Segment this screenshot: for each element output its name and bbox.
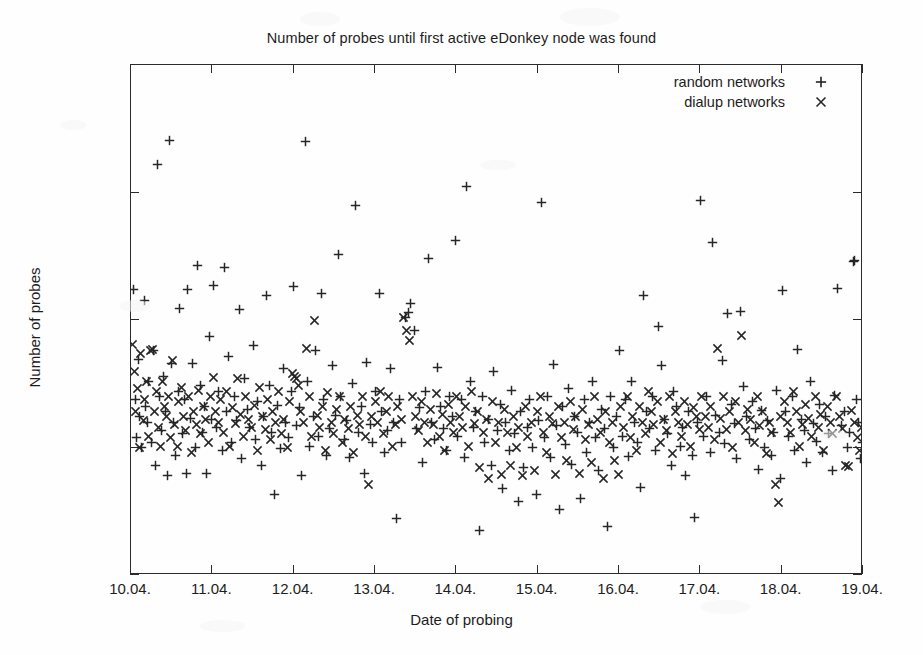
data-point-plus [417, 457, 428, 468]
data-point-cross [448, 427, 459, 438]
x-tick-mark [862, 64, 863, 73]
data-point-plus [692, 417, 703, 428]
data-point-cross [598, 473, 609, 484]
data-point-plus [148, 345, 159, 356]
chart-legend: random networksdialup networks [612, 72, 827, 112]
data-point-cross [834, 411, 845, 422]
data-point-plus [497, 483, 508, 494]
data-point-cross [595, 427, 606, 438]
data-point-cross [390, 419, 401, 430]
data-point-cross [745, 414, 756, 425]
data-point-cross [401, 325, 412, 336]
data-point-cross [260, 424, 271, 435]
data-point-plus [647, 391, 658, 402]
data-point-cross [483, 473, 494, 484]
data-point-cross [806, 431, 817, 442]
data-point-plus [156, 425, 167, 436]
data-point-cross [172, 441, 183, 452]
data-point-cross [797, 419, 808, 430]
data-point-plus [250, 434, 261, 445]
data-point-plus [213, 386, 224, 397]
data-point-plus [796, 414, 807, 425]
data-point-cross [685, 441, 696, 452]
data-point-cross [410, 411, 421, 422]
data-point-plus [461, 181, 472, 192]
data-point-plus [566, 459, 577, 470]
data-point-plus [486, 460, 497, 471]
data-point-cross [622, 391, 633, 402]
data-point-cross [392, 401, 403, 412]
data-point-plus [509, 428, 520, 439]
data-point-cross [437, 409, 448, 420]
data-point-cross [846, 405, 857, 416]
data-point-cross [381, 406, 392, 417]
data-point-plus [409, 325, 420, 336]
data-point-cross [625, 432, 636, 443]
data-point-cross [147, 344, 158, 355]
data-point-plus [150, 460, 161, 471]
data-point-plus [335, 391, 346, 402]
data-point-cross [167, 355, 178, 366]
data-point-plus [435, 401, 446, 412]
data-point-cross [254, 382, 265, 393]
data-point-plus [650, 445, 661, 456]
data-point-plus [190, 442, 201, 453]
data-point-plus [744, 434, 755, 445]
legend-item-cross: dialup networks [612, 92, 827, 112]
data-point-plus [139, 295, 150, 306]
data-point-cross [688, 402, 699, 413]
data-point-plus [131, 394, 141, 405]
data-point-cross [265, 434, 276, 445]
data-point-cross [541, 447, 552, 458]
data-point-plus [554, 504, 565, 515]
data-point-cross [224, 441, 235, 452]
data-point-cross [856, 422, 861, 433]
data-point-cross [577, 404, 588, 415]
data-point-cross [419, 417, 430, 428]
data-point-plus [805, 376, 816, 387]
y-tick-mark [853, 574, 862, 575]
data-point-plus [470, 406, 481, 417]
data-point-cross [151, 386, 162, 397]
data-point-plus [620, 394, 631, 405]
data-point-plus [731, 453, 742, 464]
data-point-cross [730, 396, 741, 407]
data-point-cross [198, 401, 209, 412]
data-point-plus [762, 415, 773, 426]
data-point-plus [264, 380, 275, 391]
data-point-cross [613, 469, 624, 480]
data-point-cross [618, 422, 629, 433]
data-point-plus [680, 470, 691, 481]
data-point-cross [348, 447, 359, 458]
data-point-plus [579, 394, 590, 405]
data-point-plus [266, 427, 277, 438]
data-point-plus [432, 362, 443, 373]
data-point-plus [719, 438, 730, 449]
x-axis-title: Date of probing [0, 611, 923, 628]
data-point-plus [488, 366, 499, 377]
data-point-cross [378, 428, 389, 439]
data-point-cross [481, 414, 492, 425]
data-point-plus [747, 396, 758, 407]
data-point-plus [677, 422, 688, 433]
data-point-cross [357, 391, 368, 402]
data-point-plus [827, 465, 838, 476]
data-point-plus [388, 417, 399, 428]
data-point-plus [808, 418, 819, 429]
data-point-cross [535, 391, 546, 402]
data-point-cross [640, 428, 651, 439]
data-point-plus [531, 489, 542, 500]
data-point-plus [687, 450, 698, 461]
data-point-plus [294, 402, 305, 413]
data-point-plus [374, 288, 385, 299]
data-point-plus [542, 391, 553, 402]
data-point-plus [321, 450, 332, 461]
data-point-cross [309, 315, 320, 326]
data-point-cross [670, 406, 681, 417]
data-point-cross [736, 330, 747, 341]
data-point-cross [163, 391, 174, 402]
data-point-cross [794, 441, 805, 452]
data-point-plus [185, 413, 196, 424]
data-point-cross [289, 371, 300, 382]
data-point-cross [460, 401, 471, 412]
